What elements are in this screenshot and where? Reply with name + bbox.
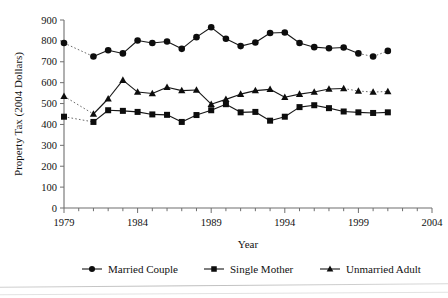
data-point-marker-square bbox=[120, 108, 126, 114]
data-point-marker-square bbox=[90, 119, 96, 125]
chart-figure: 0100200300400500600700800900197919841989… bbox=[0, 0, 448, 298]
data-point-marker-circle bbox=[252, 39, 259, 46]
y-axis-title: Property Tax (2004 Dollars) bbox=[12, 52, 25, 176]
series-segment bbox=[108, 80, 123, 99]
series-segment-dashed bbox=[64, 96, 93, 114]
data-point-marker-triangle bbox=[384, 88, 391, 95]
data-point-marker-circle bbox=[105, 47, 112, 54]
x-axis-tick-label: 1999 bbox=[348, 217, 369, 228]
y-axis-tick-label: 400 bbox=[41, 119, 57, 130]
data-point-marker-square bbox=[341, 108, 347, 114]
data-point-marker-circle bbox=[237, 43, 244, 50]
y-axis-tick-label: 100 bbox=[41, 182, 57, 193]
data-point-marker-circle bbox=[178, 46, 185, 53]
x-axis-tick-label: 1994 bbox=[274, 217, 296, 228]
data-point-marker-triangle bbox=[340, 85, 347, 92]
y-axis-tick-label: 300 bbox=[41, 140, 57, 151]
legend-item-married-couple[interactable]: Married Couple bbox=[82, 263, 178, 275]
data-point-marker-square bbox=[370, 110, 376, 116]
data-point-marker-square bbox=[238, 109, 244, 115]
y-axis-tick-label: 600 bbox=[41, 77, 57, 88]
data-point-marker-square bbox=[297, 104, 303, 110]
data-point-marker-circle bbox=[370, 53, 377, 60]
x-axis-tick-label: 2004 bbox=[422, 217, 444, 228]
y-axis-tick-label: 900 bbox=[41, 15, 57, 26]
chart-legend: Married CoupleSingle MotherUnmarried Adu… bbox=[82, 263, 421, 275]
legend-item-unmarried-adult[interactable]: Unmarried Adult bbox=[320, 263, 421, 275]
data-point-marker-square bbox=[105, 107, 111, 113]
data-point-marker-square bbox=[135, 109, 141, 115]
series-single-mother bbox=[61, 101, 391, 125]
x-axis-tick-label: 1989 bbox=[201, 217, 222, 228]
y-axis-tick-label: 0 bbox=[52, 203, 57, 214]
data-point-marker-square bbox=[355, 109, 361, 115]
series-married-couple bbox=[61, 24, 391, 60]
y-axis-tick-label: 500 bbox=[41, 98, 57, 109]
data-point-marker-circle bbox=[193, 34, 200, 41]
data-point-marker-square bbox=[267, 118, 273, 124]
data-point-marker-circle bbox=[296, 40, 303, 47]
x-axis-tick-label: 1979 bbox=[54, 217, 75, 228]
data-point-marker-circle bbox=[223, 36, 230, 43]
data-point-marker-circle bbox=[340, 44, 347, 51]
data-point-marker-circle bbox=[326, 45, 333, 52]
property-tax-line-chart: 0100200300400500600700800900197919841989… bbox=[0, 0, 448, 298]
legend-label: Single Mother bbox=[230, 263, 294, 275]
data-point-marker-circle bbox=[385, 48, 392, 55]
data-point-marker-circle bbox=[164, 38, 171, 45]
data-point-marker-triangle bbox=[266, 86, 273, 93]
legend-label: Unmarried Adult bbox=[346, 263, 421, 275]
data-point-marker-square bbox=[149, 111, 155, 117]
data-point-marker-circle bbox=[120, 50, 127, 57]
data-point-marker-triangle bbox=[193, 86, 200, 93]
data-point-marker-square bbox=[211, 266, 217, 272]
data-point-marker-circle bbox=[282, 29, 289, 36]
y-axis-tick-label: 700 bbox=[41, 56, 57, 67]
y-axis-tick-label: 200 bbox=[41, 161, 57, 172]
data-point-marker-circle bbox=[355, 50, 362, 57]
y-axis-tick-label: 800 bbox=[41, 35, 57, 46]
axes-layer bbox=[60, 20, 432, 213]
data-point-marker-square bbox=[311, 102, 317, 108]
data-point-marker-square bbox=[252, 109, 258, 115]
legend-label: Married Couple bbox=[108, 263, 178, 275]
data-point-marker-circle bbox=[61, 40, 68, 47]
data-point-marker-square bbox=[193, 112, 199, 118]
data-point-marker-circle bbox=[89, 266, 95, 272]
data-point-marker-circle bbox=[208, 24, 215, 31]
data-point-marker-square bbox=[385, 109, 391, 115]
x-axis-title: Year bbox=[238, 238, 259, 250]
data-point-marker-square bbox=[61, 114, 67, 120]
data-point-marker-square bbox=[326, 105, 332, 111]
data-point-marker-circle bbox=[134, 37, 141, 44]
data-point-marker-circle bbox=[267, 30, 274, 37]
data-point-marker-triangle bbox=[119, 76, 126, 83]
data-point-marker-square bbox=[208, 107, 214, 113]
x-axis-tick-label: 1984 bbox=[127, 217, 149, 228]
series-segment-dashed bbox=[64, 117, 93, 122]
data-point-marker-circle bbox=[149, 40, 156, 47]
legend-item-single-mother[interactable]: Single Mother bbox=[204, 263, 294, 275]
data-point-marker-circle bbox=[90, 53, 97, 60]
axis-labels-layer: 0100200300400500600700800900197919841989… bbox=[12, 15, 443, 250]
data-point-marker-triangle bbox=[60, 92, 67, 99]
series-layer bbox=[60, 24, 391, 125]
data-point-marker-circle bbox=[311, 44, 318, 51]
data-point-marker-triangle bbox=[134, 88, 141, 95]
data-point-marker-square bbox=[282, 114, 288, 120]
series-segment-dashed bbox=[64, 43, 93, 57]
data-point-marker-square bbox=[179, 119, 185, 125]
data-point-marker-triangle bbox=[163, 83, 170, 90]
data-point-marker-square bbox=[164, 112, 170, 118]
